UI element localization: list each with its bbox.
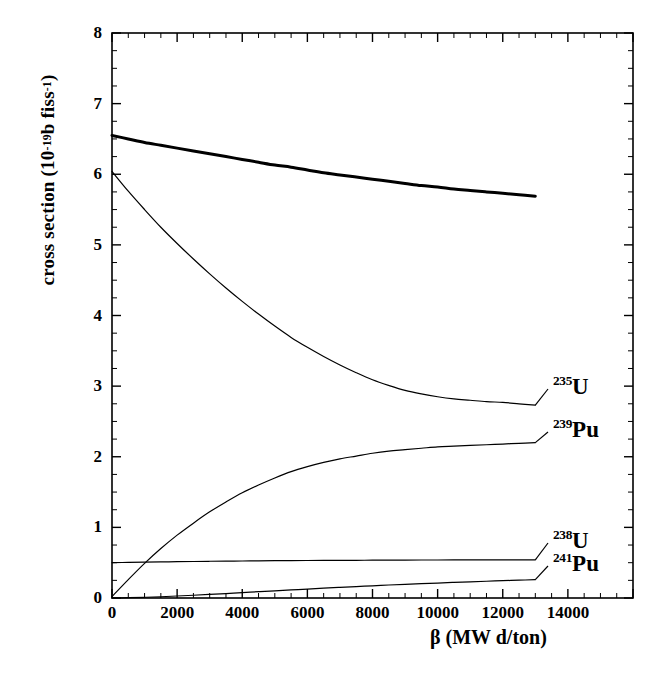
curve-label-element-U238: U	[572, 528, 589, 553]
curve-label-mass-U235: 235	[553, 373, 572, 388]
curve-label-element-U235: U	[572, 374, 589, 399]
x-tick-label-10000: 10000	[416, 604, 459, 621]
x-tick-label-12000: 12000	[482, 604, 525, 621]
curve-label-U238: 238U	[553, 529, 589, 552]
curve-label-mass-Pu239: 239	[553, 416, 572, 431]
x-tick-label-2000: 2000	[160, 604, 194, 621]
x-tick-label-14000: 14000	[547, 604, 590, 621]
curve-label-mass-U238: 238	[553, 527, 572, 542]
x-tick-label-6000: 6000	[290, 604, 324, 621]
x-tick-label-4000: 4000	[225, 604, 259, 621]
x-axis-tick-labels: 02000400060008000100001200014000	[0, 0, 668, 688]
x-tick-label-8000: 8000	[356, 604, 390, 621]
x-tick-label-0: 0	[108, 604, 117, 621]
curve-label-Pu239: 239Pu	[553, 418, 599, 441]
curve-label-U235: 235U	[553, 375, 589, 398]
curve-label-Pu241: 241Pu	[553, 552, 599, 575]
curve-label-element-Pu241: Pu	[572, 551, 599, 576]
curve-label-element-Pu239: Pu	[572, 417, 599, 442]
cross-section-chart: cross section (10-19b fiss-1) β (MW d/to…	[0, 0, 668, 688]
curve-label-mass-Pu241: 241	[553, 550, 572, 565]
